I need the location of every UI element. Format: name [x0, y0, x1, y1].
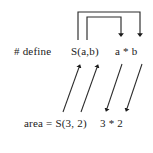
bracket-param-a-to-body	[78, 12, 140, 40]
macro-expansion-label: 3 * 2	[100, 118, 123, 129]
arrow-body-a-to-value-3	[107, 64, 123, 110]
arrow-body-b-to-value-2	[127, 64, 143, 110]
macro-expansion-figure: # define S(a,b) a * b area = S(3, 2) 3 *…	[0, 0, 153, 153]
arrow-layer	[0, 0, 153, 153]
arrow-arg-3-to-param-a	[63, 66, 80, 112]
bracket-param-b-to-body	[87, 17, 121, 40]
macro-signature-label: S(a,b)	[71, 46, 99, 57]
define-directive-label: # define	[14, 46, 51, 57]
macro-body-label: a * b	[115, 46, 137, 57]
macro-call-label: area = S(3, 2)	[24, 118, 87, 129]
arrow-arg-2-to-param-b	[81, 66, 98, 112]
